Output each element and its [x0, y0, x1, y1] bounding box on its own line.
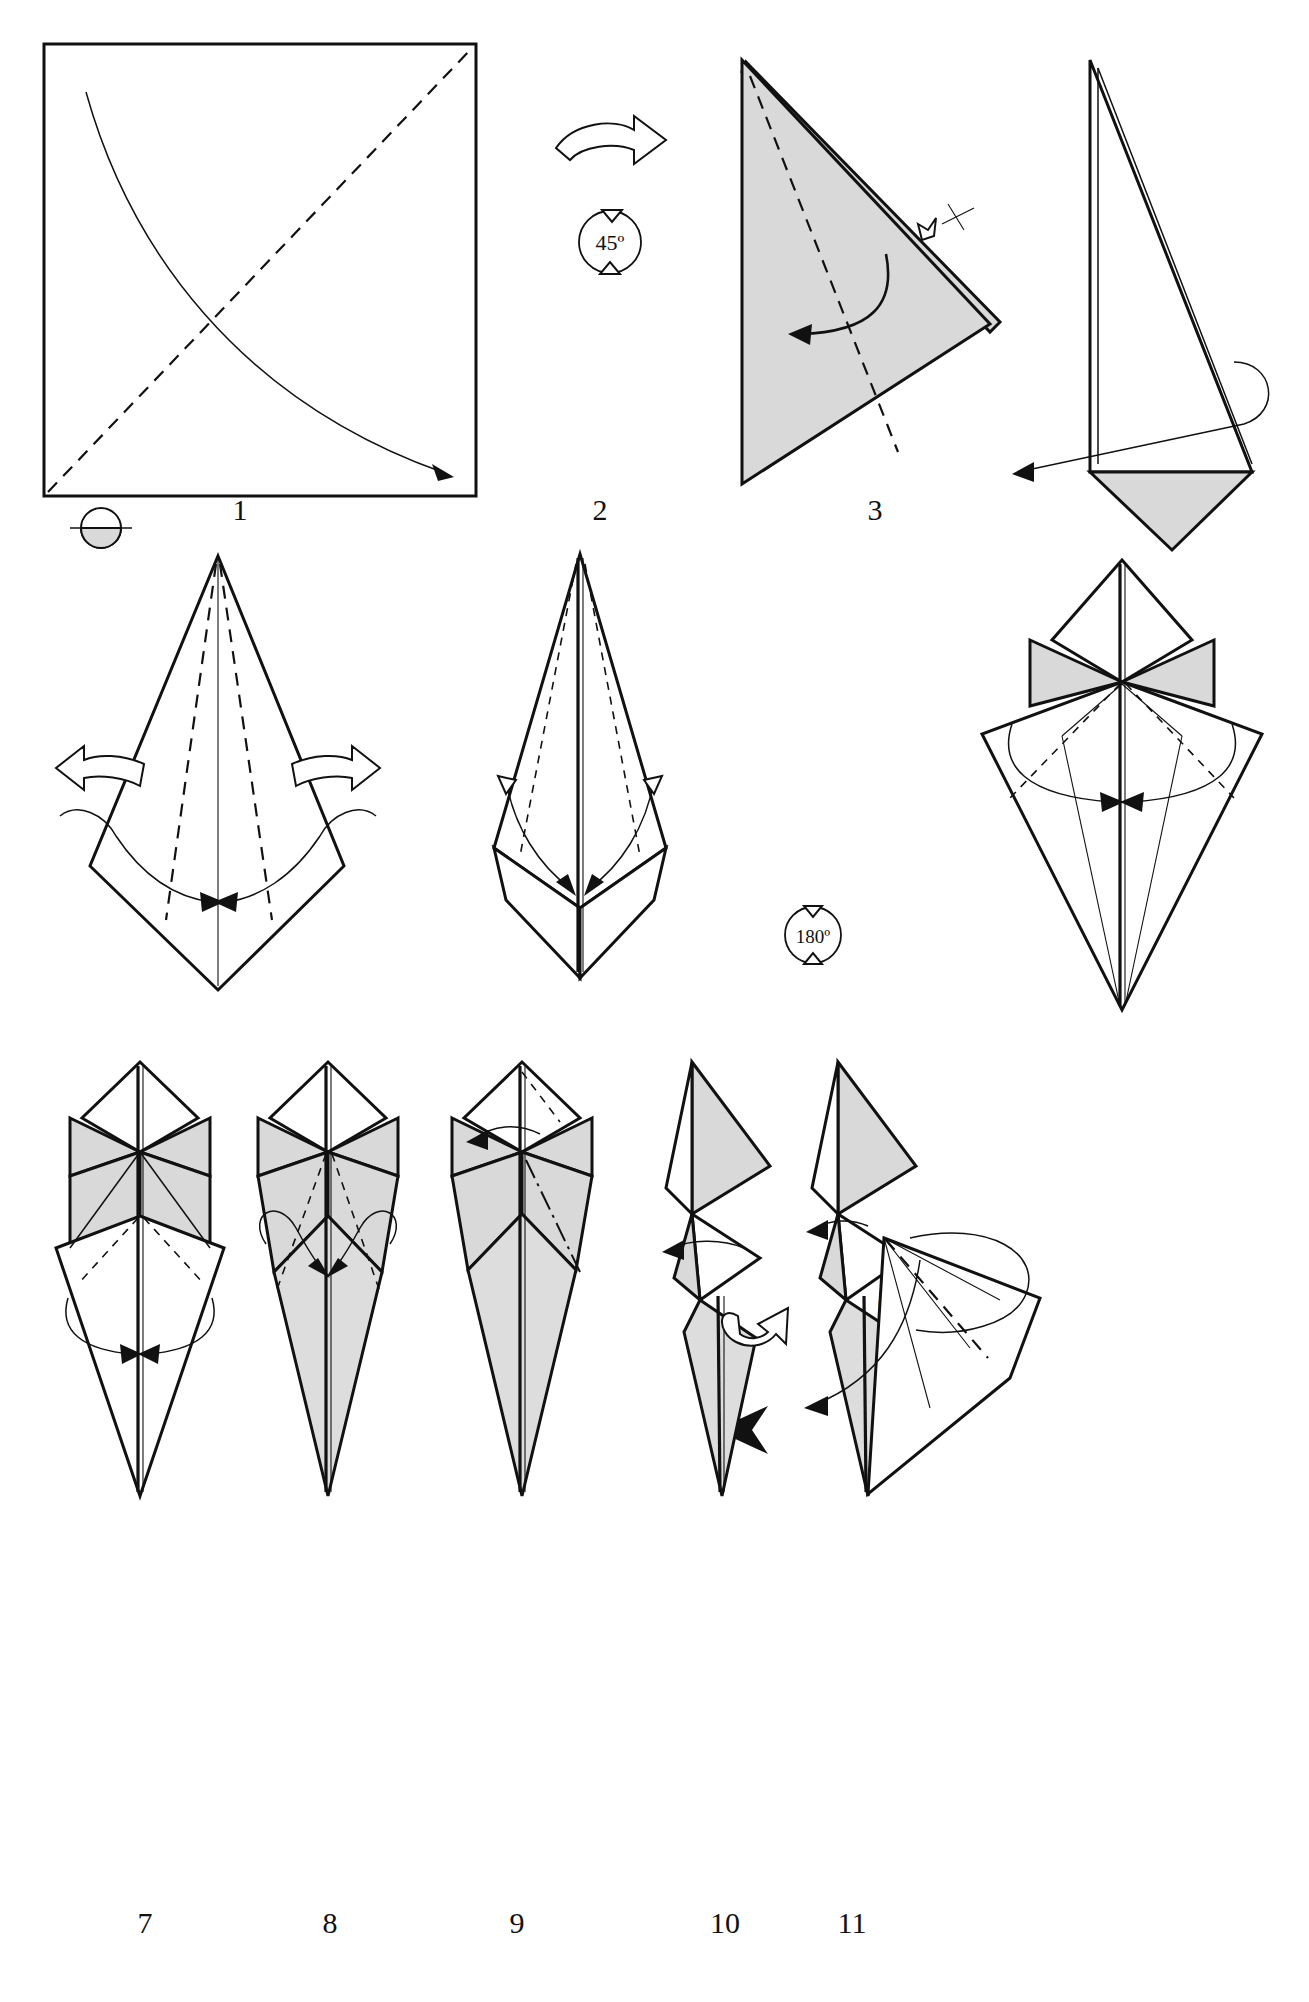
step-10-spine	[718, 1296, 720, 1492]
step-11-right-flap	[868, 1238, 1040, 1494]
step-9-lower-shade	[468, 1214, 576, 1496]
step-3-white-face	[1090, 60, 1252, 472]
origami-diagram-sheet: 45º 1 2	[0, 0, 1309, 2002]
x-marker-pointer	[918, 218, 936, 240]
step-2-number: 2	[560, 495, 640, 525]
step-6-panel	[1000, 548, 1290, 1018]
rotate-180-label: 180º	[796, 926, 831, 947]
step-3-wrap-arrowhead	[1012, 462, 1034, 482]
step-3-panel	[1012, 32, 1302, 522]
step-11-upper-gray	[838, 1062, 916, 1214]
rotate-45-arrow-bottom	[600, 262, 620, 274]
step-11-spine	[864, 1296, 866, 1492]
step-10-number: 10	[695, 1908, 755, 1938]
step-5-white-body	[494, 554, 666, 908]
step-8-number: 8	[305, 1908, 355, 1938]
step-11-panel	[790, 1048, 1130, 1518]
step-1-panel	[40, 40, 500, 510]
step-6-body	[982, 682, 1262, 1010]
step-11-pull-arrowhead	[804, 1396, 828, 1416]
step-10-mid-white	[692, 1214, 760, 1300]
step-11-small-arrowhead	[806, 1220, 828, 1240]
step-11-number: 11	[822, 1908, 882, 1938]
step-5-rotate-symbol: 180º	[768, 890, 858, 980]
step-2-panel	[690, 32, 1020, 512]
step-10-twist-arrow	[722, 1308, 788, 1346]
step-3-number: 3	[835, 495, 915, 525]
step-1-number: 1	[200, 495, 280, 525]
step-7-number: 7	[120, 1908, 170, 1938]
rotate-180-arrow-bottom	[804, 953, 822, 964]
turn-over-arrow	[556, 116, 666, 164]
step-8-lower-shade	[274, 1216, 382, 1496]
step-3-gray-flap	[1090, 472, 1252, 550]
step-5-panel	[410, 548, 750, 1018]
x-marker	[942, 204, 974, 230]
rotate-45-arrow-top	[602, 210, 622, 222]
step-10-upper-gray	[692, 1062, 770, 1214]
rotate-45-label: 45º	[596, 230, 625, 255]
key-gray-half	[81, 528, 121, 548]
step-7-body	[56, 1216, 224, 1496]
step-11-upper-white	[812, 1062, 838, 1214]
step-10-pull-arrowhead	[662, 1240, 684, 1260]
step-1-annotations: 45º	[548, 108, 678, 298]
step-10-upper-white	[666, 1062, 692, 1214]
rotate-180-arrow-top	[804, 906, 822, 917]
step-4-panel	[48, 548, 388, 1018]
step-9-number: 9	[492, 1908, 542, 1938]
